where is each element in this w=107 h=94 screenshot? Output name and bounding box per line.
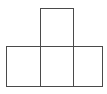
square-bottom-right (73, 46, 103, 87)
square-bottom-left (6, 46, 41, 87)
diagram-canvas (0, 0, 107, 94)
square-top (40, 8, 74, 47)
square-bottom-middle (40, 46, 74, 87)
